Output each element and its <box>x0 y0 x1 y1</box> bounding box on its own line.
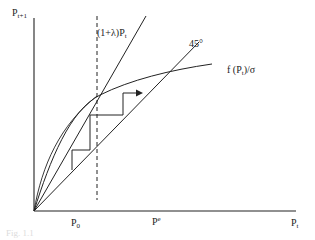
steep-line-label: (1+λ)Pt <box>97 28 127 40</box>
figure-caption: Fig. 1.1 <box>6 229 34 238</box>
y-axis-label: Pt+1 <box>12 8 27 20</box>
diagram-canvas <box>0 0 315 240</box>
staircase-path <box>72 93 136 170</box>
p0-tick-label: P0 <box>71 218 80 230</box>
pe-tick-label: Pe <box>152 216 161 227</box>
x-axis-label: Pt <box>291 218 299 230</box>
arrow-head-icon <box>136 90 143 97</box>
curve-label: f (Pt)/σ <box>227 65 255 77</box>
diagonal-label: 45° <box>189 39 203 49</box>
